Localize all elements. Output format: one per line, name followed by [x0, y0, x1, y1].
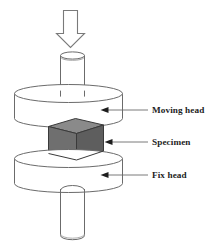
label-specimen: Specimen [152, 137, 191, 147]
downward-load-arrow [57, 11, 85, 48]
compression-test-diagram: Moving head Specimen Fix head [0, 0, 218, 249]
diagram-canvas: Moving head Specimen Fix head [0, 0, 218, 249]
arrowhead-specimen [105, 139, 113, 145]
lower-ram-cylinder [61, 186, 85, 240]
callout-specimen: Specimen [105, 137, 191, 147]
label-moving-head: Moving head [152, 105, 204, 115]
label-fix-head: Fix head [152, 170, 187, 180]
